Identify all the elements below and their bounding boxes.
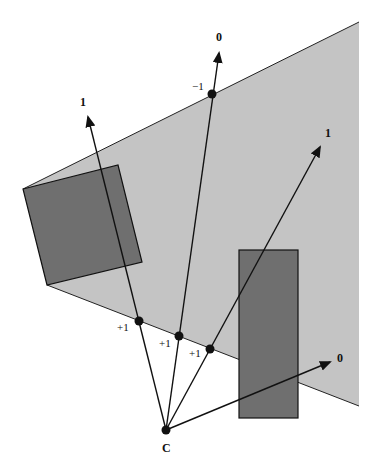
crossing-dot-2	[175, 332, 184, 341]
ray-right-label: 1	[325, 126, 331, 140]
crossing-label-3: +1	[189, 347, 201, 359]
camera-label: C	[162, 441, 171, 455]
shadow-volume-diagram: 1 0 1 0 −1 +1 +1 +1 C	[0, 0, 377, 475]
diagram-canvas: 1 0 1 0 −1 +1 +1 +1 C	[0, 0, 377, 475]
rectangle-occluder	[239, 250, 298, 418]
crossing-label-1: +1	[117, 321, 129, 333]
crossing-dot-1	[135, 317, 144, 326]
ray-bottom-label: 0	[337, 351, 343, 365]
camera-point	[162, 426, 171, 435]
ray-middle-label: 0	[216, 30, 222, 44]
ray-left-label: 1	[80, 95, 86, 109]
crossing-dot-top	[208, 90, 217, 99]
crossing-label-top: −1	[192, 80, 204, 92]
crossing-dot-3	[206, 345, 215, 354]
crossing-label-2: +1	[159, 337, 171, 349]
